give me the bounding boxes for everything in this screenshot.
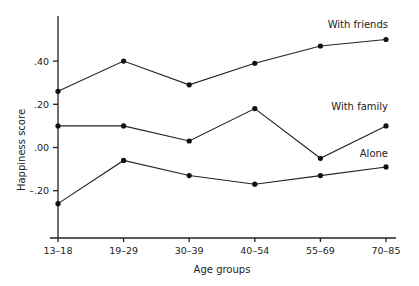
y-axis-title: Happiness score [16,109,27,191]
y-ticks: .40.20.00–.20 [29,56,58,197]
y-tick-label: .20 [34,99,49,110]
data-point-with-family [121,123,126,128]
data-point-with-friends [318,43,323,48]
data-point-with-family [187,138,192,143]
data-point-with-family [252,106,257,111]
data-point-with-friends [55,89,60,94]
series-line-with-friends [58,40,386,92]
x-tick-label: 13–18 [44,245,73,256]
y-tick-label: –.20 [29,185,49,196]
series-line-alone [58,160,386,203]
data-point-with-friends [121,59,126,64]
x-tick-label: 55–69 [306,245,335,256]
series-group: With friendsWith familyAlone [55,19,388,207]
series-line-with-family [58,109,386,159]
series-label-alone: Alone [360,148,388,159]
data-point-with-friends [252,61,257,66]
data-point-with-family [55,123,60,128]
series-with-family: With family [55,101,388,161]
data-point-with-friends [383,37,388,42]
x-tick-label: 30–39 [175,245,204,256]
x-axis-title: Age groups [194,264,251,275]
data-point-with-friends [187,82,192,87]
x-ticks: 13–1819–2930–3940–5455–6970–85 [44,238,401,256]
line-chart: .40.20.00–.20 13–1819–2930–3940–5455–697… [0,0,419,286]
data-point-alone [55,201,60,206]
x-tick-label: 70–85 [372,245,401,256]
series-alone: Alone [55,148,388,206]
y-tick-label: .40 [34,56,49,67]
data-point-alone [187,173,192,178]
data-point-alone [121,158,126,163]
data-point-alone [318,173,323,178]
data-point-alone [252,182,257,187]
y-tick-label: .00 [34,142,49,153]
axes [50,16,396,238]
data-point-with-family [383,123,388,128]
data-point-with-family [318,156,323,161]
data-point-alone [383,164,388,169]
x-tick-label: 19–29 [109,245,138,256]
series-label-with-family: With family [331,101,388,112]
series-label-with-friends: With friends [328,19,388,30]
series-with-friends: With friends [55,19,388,94]
x-tick-label: 40–54 [240,245,269,256]
